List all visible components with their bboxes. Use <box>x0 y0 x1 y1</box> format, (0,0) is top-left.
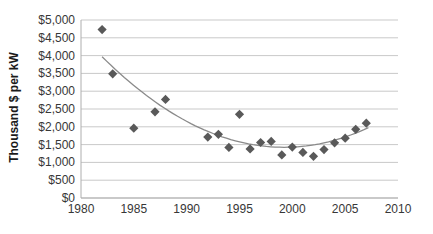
y-tick-label: $2,000 <box>38 120 75 134</box>
data-point-marker <box>288 143 297 152</box>
x-tick-label: 1980 <box>68 202 95 216</box>
data-point-marker <box>203 133 212 142</box>
y-tick-label: $3,500 <box>38 66 75 80</box>
y-tick-label: $4,000 <box>38 49 75 63</box>
data-point-marker <box>319 145 328 154</box>
data-point-marker <box>298 148 307 157</box>
y-tick-label: $2,500 <box>38 102 75 116</box>
x-tick-label: 1990 <box>173 202 200 216</box>
x-tick-label: 2010 <box>385 202 412 216</box>
data-point-marker <box>129 124 138 133</box>
data-point-marker <box>341 134 350 143</box>
data-point-marker <box>235 110 244 119</box>
data-point-marker <box>98 25 107 34</box>
y-tick-label: $1,000 <box>38 155 75 169</box>
y-tick-label: $4,500 <box>38 31 75 45</box>
data-point-marker <box>277 150 286 159</box>
data-point-marker <box>246 144 255 153</box>
plot-svg: $0$500$1,000$1,500$2,000$2,500$3,000$3,5… <box>0 0 433 234</box>
trendline <box>102 57 368 148</box>
data-point-marker <box>309 152 318 161</box>
x-tick-label: 1985 <box>120 202 147 216</box>
x-tick-label: 2005 <box>332 202 359 216</box>
y-tick-label: $5,000 <box>38 13 75 27</box>
scatter-chart: $0$500$1,000$1,500$2,000$2,500$3,000$3,5… <box>0 0 433 234</box>
y-axis-title: Thousand $ per kW <box>7 20 22 196</box>
x-tick-label: 2000 <box>279 202 306 216</box>
y-tick-label: $500 <box>48 173 75 187</box>
data-point-marker <box>214 130 223 139</box>
y-tick-label: $3,000 <box>38 84 75 98</box>
y-tick-label: $1,500 <box>38 138 75 152</box>
x-tick-label: 1995 <box>226 202 253 216</box>
data-point-marker <box>161 95 170 104</box>
